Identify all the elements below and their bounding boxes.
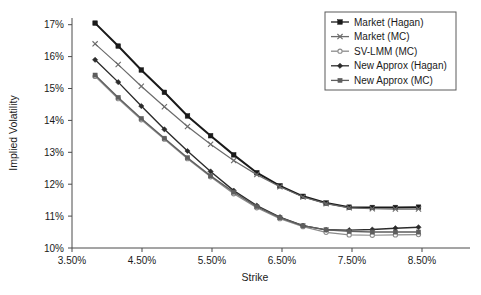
x-tick-label: 4.50% [128,255,156,266]
x-tick-label: 5.50% [198,255,226,266]
y-tick-label: 14% [44,115,64,126]
y-axis-title: Implied Volatility [7,95,19,171]
x-tick-label: 6.50% [268,255,296,266]
data-point-marker [93,21,98,26]
y-tick-label: 10% [44,243,64,254]
y-tick-label: 12% [44,179,64,190]
y-tick-label: 17% [44,19,64,30]
x-tick-label: 8.50% [408,255,436,266]
data-point-marker [185,114,190,119]
y-tick-label: 13% [44,147,64,158]
data-point-marker [232,190,236,194]
y-tick-label: 15% [44,83,64,94]
x-ticks-group: 3.50%4.50%5.50%6.50%7.50%8.50% [58,248,436,266]
data-point-marker [416,225,421,230]
data-point-marker [162,136,166,140]
data-point-marker [370,230,374,234]
y-tick-label: 11% [45,211,64,222]
data-point-marker [393,230,397,234]
data-point-marker [347,229,351,233]
data-point-marker [278,216,282,220]
y-ticks-group: 10%11%12%13%14%15%16%17% [44,19,72,253]
data-point-marker [231,158,236,163]
legend-label: SV-LMM (MC) [354,46,417,57]
data-point-marker [139,68,144,73]
chart-canvas: 10%11%12%13%14%15%16%17%3.50%4.50%5.50%6… [0,0,481,295]
legend-label: Market (Hagan) [354,17,423,28]
data-point-marker [208,142,213,147]
data-point-marker [301,224,305,228]
data-point-marker [416,230,420,234]
y-tick-label: 16% [44,51,64,62]
data-point-marker [116,44,121,49]
data-point-marker [338,49,342,53]
data-point-marker [93,41,98,46]
series-2 [93,74,421,237]
implied-volatility-chart: 10%11%12%13%14%15%16%17%3.50%4.50%5.50%6… [0,0,481,295]
data-point-marker [324,228,328,232]
data-point-marker [255,204,259,208]
legend-label: Market (MC) [354,31,410,42]
x-tick-label: 3.50% [58,255,86,266]
data-point-marker [162,104,167,109]
data-point-marker [338,78,342,82]
legend: Market (Hagan)Market (MC)SV-LMM (MC)New … [325,12,456,90]
data-point-marker [116,62,121,67]
data-point-marker [116,95,120,99]
legend-label: New Approx (Hagan) [354,60,447,71]
data-point-marker [185,156,189,160]
legend-label: New Approx (MC) [354,75,433,86]
data-point-marker [338,20,343,25]
data-point-marker [231,153,236,158]
x-axis-title: Strike [242,271,269,283]
data-point-marker [209,174,213,178]
data-point-marker [185,124,190,129]
x-tick-label: 7.50% [338,255,366,266]
data-point-marker [162,90,167,95]
data-point-marker [139,116,143,120]
data-point-marker [93,73,97,77]
data-point-marker [139,84,144,89]
data-point-marker [208,133,213,138]
